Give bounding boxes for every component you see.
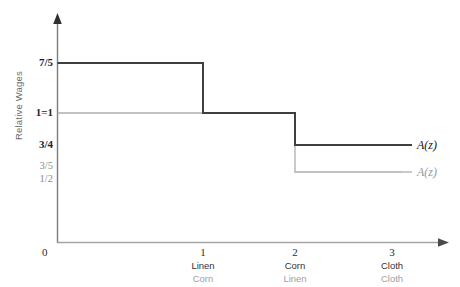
x-tick-2-secondary: Linen (255, 272, 335, 285)
y-tick-label: 7/5 (39, 56, 53, 68)
chart-plot-area (0, 0, 460, 287)
x-tick-3-secondary: Cloth (352, 272, 432, 285)
x-axis-arrow-icon (438, 238, 449, 246)
y-axis-title: Relative Wages (13, 46, 24, 166)
y-tick-label: 3/4 (39, 138, 53, 150)
x-tick-3-primary: Cloth (352, 259, 432, 272)
series-light-Az (58, 113, 403, 172)
x-tick-1-number: 1 (163, 246, 243, 259)
x-tick-2-number: 2 (255, 246, 335, 259)
y-axis (53, 13, 62, 243)
y-tick-label: 1=1 (36, 106, 53, 118)
series-label-light-Az: A(z) (417, 165, 437, 180)
x-tick-3-number: 3 (352, 246, 432, 259)
x-tick-2-primary: Corn (255, 259, 335, 272)
series-label-dark-Az: A(z) (417, 138, 437, 153)
y-tick-label: 3/5 (40, 160, 53, 171)
x-tick-1-secondary: Corn (163, 272, 243, 285)
y-tick-label: 1/2 (40, 173, 53, 184)
x-tick-3: 3 Cloth Cloth (352, 246, 432, 285)
y-axis-arrow-icon (53, 13, 62, 24)
x-tick-1: 1 Linen Corn (163, 246, 243, 285)
series-dark-Az (58, 63, 403, 145)
relative-wages-step-chart: Relative Wages 7/5 1=1 3/4 3/5 1/2 0 1 L… (0, 0, 460, 287)
x-tick-1-primary: Linen (163, 259, 243, 272)
x-tick-2: 2 Corn Linen (255, 246, 335, 285)
x-tick-0: 0 (42, 246, 48, 258)
